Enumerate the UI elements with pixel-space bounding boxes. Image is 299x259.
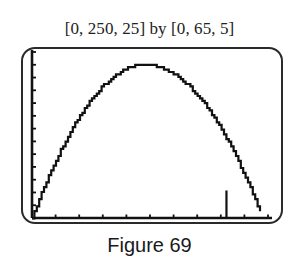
axes <box>32 50 272 218</box>
figure-caption: Figure 69 <box>0 234 299 257</box>
graph-plot <box>0 0 299 259</box>
axis-ticks <box>32 52 268 218</box>
